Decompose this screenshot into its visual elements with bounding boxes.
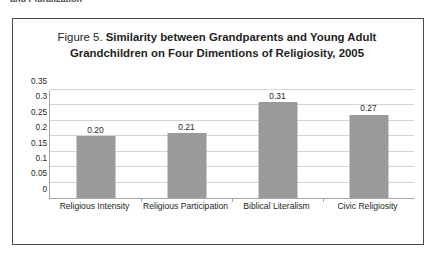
y-axis-tick-label: 0.35 [31,78,47,86]
bar-group: 0.27 [323,90,414,198]
bar-value-label: 0.20 [87,126,103,134]
y-axis-tick-label: 0 [42,186,47,194]
category-label: Civic Religiosity [322,201,413,212]
y-axis-tick-label: 0.15 [31,139,47,147]
figure-container: Figure 5. Similarity between Grandparent… [12,18,424,245]
y-axis-tick-label: 0.3 [36,93,47,101]
bar[interactable] [76,136,115,198]
category-label: Religious Participation [140,201,231,212]
y-axis-tick-label: 0.2 [36,124,47,132]
x-axis-category-labels: Religious IntensityReligious Participati… [49,201,413,212]
bar-group: 0.31 [232,90,323,198]
bar-group: 0.21 [141,90,232,198]
plot-wrapper: 00.050.10.150.20.250.30.35 0.200.210.310… [13,19,423,244]
bar-value-label: 0.27 [360,104,376,112]
bar-group: 0.20 [50,90,141,198]
category-label: Biblical Literalism [231,201,322,212]
clipped-header-text: and Pluralization [10,0,160,6]
bar-series: 0.200.210.310.27 [50,90,414,198]
bar-value-label: 0.21 [178,123,194,131]
y-axis-tick-label: 0.1 [36,155,47,163]
bar[interactable] [258,102,297,198]
y-axis-tick-label: 0.25 [31,109,47,117]
category-label: Religious Intensity [49,201,140,212]
bar[interactable] [167,133,206,198]
y-axis-tick-label: 0.05 [31,170,47,178]
plot-area: 00.050.10.150.20.250.30.35 0.200.210.310… [49,90,414,199]
bar-value-label: 0.31 [269,92,285,100]
bar[interactable] [349,115,388,198]
